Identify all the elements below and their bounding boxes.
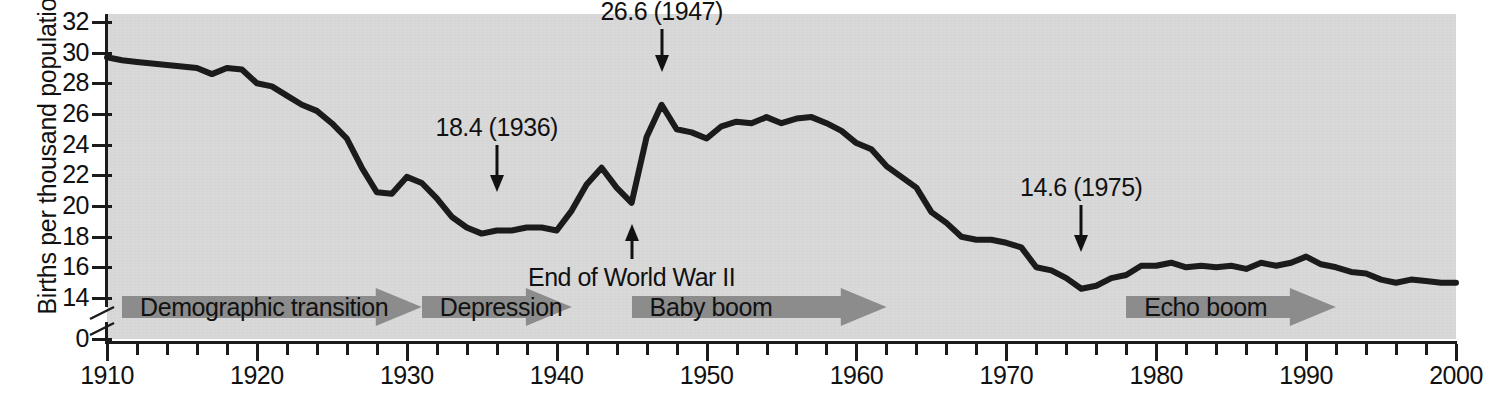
- annotation-label-1945: End of World War II: [528, 263, 735, 292]
- y-tick-30: [92, 52, 112, 55]
- x-tick-1998: [1425, 344, 1428, 355]
- x-tick-1976: [1095, 344, 1098, 355]
- x-tick-1990: [1305, 344, 1308, 361]
- x-tick-1954: [766, 344, 769, 355]
- x-tick-1966: [945, 344, 948, 355]
- y-tick-22: [92, 174, 112, 177]
- x-tick-label-1950: 1950: [680, 361, 734, 390]
- x-tick-1912: [136, 344, 139, 355]
- x-tick-1936: [496, 344, 499, 355]
- birth-rate-line: [107, 57, 1456, 288]
- x-tick-1964: [915, 344, 918, 355]
- x-tick-2000: [1455, 344, 1458, 361]
- y-tick-label-30: 30: [62, 40, 89, 65]
- y-tick-label-16: 16: [62, 254, 89, 279]
- x-tick-1924: [316, 344, 319, 355]
- x-tick-label-2000: 2000: [1429, 361, 1483, 390]
- x-tick-1970: [1005, 344, 1008, 361]
- x-tick-label-1910: 1910: [80, 361, 134, 390]
- annotation-arrow-1975: [1068, 201, 1094, 255]
- y-tick-label-22: 22: [62, 162, 89, 187]
- y-tick-26: [92, 113, 112, 116]
- y-tick-32: [92, 21, 112, 24]
- x-tick-1948: [676, 344, 679, 355]
- x-tick-1928: [376, 344, 379, 355]
- x-tick-1914: [166, 344, 169, 355]
- y-tick-18: [92, 236, 112, 239]
- x-tick-1952: [736, 344, 739, 355]
- y-tick-label-18: 18: [62, 224, 89, 249]
- annotation-arrow-1945: [619, 221, 645, 263]
- x-tick-1950: [706, 344, 709, 361]
- birth-rate-chart: Demographic transitionDepressionBaby boo…: [0, 0, 1508, 410]
- x-tick-1944: [616, 344, 619, 355]
- x-tick-1918: [226, 344, 229, 355]
- x-tick-1968: [975, 344, 978, 355]
- y-tick-label-28: 28: [62, 70, 89, 95]
- x-tick-1942: [586, 344, 589, 355]
- x-tick-1972: [1035, 344, 1038, 355]
- annotation-label-1947: 26.6 (1947): [600, 0, 722, 26]
- x-tick-1922: [286, 344, 289, 355]
- x-tick-1930: [406, 344, 409, 361]
- x-tick-1960: [855, 344, 858, 361]
- x-tick-1982: [1185, 344, 1188, 355]
- y-tick-label-24: 24: [62, 132, 89, 157]
- annotation-label-1975: 14.6 (1975): [1020, 173, 1142, 202]
- x-tick-1988: [1275, 344, 1278, 355]
- annotation-arrow-1947: [649, 25, 675, 75]
- y-tick-14: [92, 297, 112, 300]
- x-tick-1986: [1245, 344, 1248, 355]
- y-tick-label-14: 14: [62, 285, 89, 310]
- x-tick-1916: [196, 344, 199, 355]
- y-axis-title: Births per thousand population: [33, 15, 62, 315]
- y-axis-break-icon: [88, 303, 128, 339]
- y-tick-label-20: 20: [62, 193, 89, 218]
- x-tick-1984: [1215, 344, 1218, 355]
- y-tick-label-32: 32: [62, 9, 89, 34]
- x-tick-1910: [106, 344, 109, 361]
- y-tick-0: [92, 338, 112, 341]
- x-tick-label-1940: 1940: [530, 361, 584, 390]
- y-tick-label-0: 0: [76, 326, 89, 351]
- x-tick-1926: [346, 344, 349, 355]
- x-tick-1958: [825, 344, 828, 355]
- y-axis-line: [105, 14, 108, 307]
- annotation-label-1936: 18.4 (1936): [436, 113, 558, 142]
- annotation-arrow-1936: [484, 141, 510, 195]
- x-tick-label-1920: 1920: [230, 361, 284, 390]
- x-tick-label-1930: 1930: [380, 361, 434, 390]
- x-axis-line: [105, 341, 1457, 344]
- x-tick-label-1960: 1960: [830, 361, 884, 390]
- x-tick-label-1970: 1970: [980, 361, 1034, 390]
- x-tick-label-1980: 1980: [1129, 361, 1183, 390]
- x-tick-1978: [1125, 344, 1128, 355]
- x-tick-1992: [1335, 344, 1338, 355]
- y-tick-label-26: 26: [62, 101, 89, 126]
- x-tick-1920: [256, 344, 259, 361]
- y-tick-24: [92, 144, 112, 147]
- x-tick-1934: [466, 344, 469, 355]
- x-tick-1974: [1065, 344, 1068, 355]
- y-tick-16: [92, 266, 112, 269]
- x-tick-1946: [646, 344, 649, 355]
- x-tick-1996: [1395, 344, 1398, 355]
- x-tick-1938: [526, 344, 529, 355]
- x-tick-label-1990: 1990: [1279, 361, 1333, 390]
- x-tick-1932: [436, 344, 439, 355]
- x-tick-1940: [556, 344, 559, 361]
- x-tick-1962: [885, 344, 888, 355]
- y-tick-20: [92, 205, 112, 208]
- x-tick-1980: [1155, 344, 1158, 361]
- x-tick-1956: [795, 344, 798, 355]
- x-tick-1994: [1365, 344, 1368, 355]
- y-tick-28: [92, 82, 112, 85]
